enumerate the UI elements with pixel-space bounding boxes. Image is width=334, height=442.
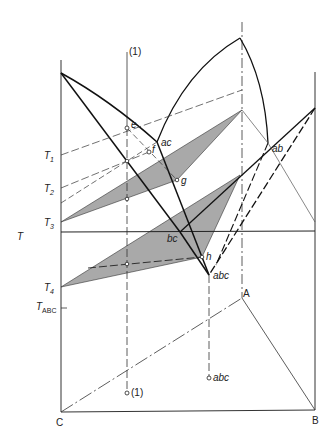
label-line1-bottom: (1)	[131, 387, 143, 398]
point-e	[125, 126, 129, 130]
base-edge-CA	[61, 298, 242, 412]
label-f: f	[152, 144, 156, 155]
label-TABC: TABC	[36, 301, 57, 314]
label-T2: T2	[44, 183, 54, 196]
label-e: e	[131, 119, 137, 130]
label-ab: ab	[272, 143, 284, 154]
label-abc-base: abc	[213, 372, 229, 383]
label-T4: T4	[44, 282, 54, 295]
curve-ac-to-A-peak	[157, 38, 240, 142]
curve-A-peak-to-ab	[240, 38, 268, 143]
point-line1-a	[125, 159, 129, 163]
point-h	[200, 255, 204, 259]
label-bc: bc	[167, 233, 178, 244]
label-ac: ac	[161, 137, 172, 148]
point-g	[175, 178, 179, 182]
label-A: A	[243, 288, 250, 299]
label-T1: T1	[44, 150, 54, 163]
thin-line-A-to-ab	[242, 110, 268, 143]
base-edge-AB	[242, 298, 315, 410]
label-abc: abc	[213, 270, 229, 281]
label-T3: T3	[44, 217, 54, 230]
point-abc-base	[207, 376, 211, 380]
label-g: g	[181, 175, 187, 186]
base-line-CB	[61, 410, 315, 412]
label-line1-top: (1)	[129, 46, 141, 57]
temperature-line-T	[61, 231, 315, 232]
point-line1-b	[125, 197, 129, 201]
valley-C-to-bc	[61, 73, 180, 232]
point-f	[147, 150, 151, 154]
point-line1-base	[125, 391, 129, 395]
label-B: B	[312, 415, 319, 426]
label-h: h	[206, 251, 212, 262]
thin-line-ab-to-B	[268, 143, 315, 222]
point-line1-c	[125, 262, 129, 266]
label-C: C	[56, 417, 63, 428]
phase-diagram: (1) e f ac ab g bc h abc abc (1) T1 T2 T…	[0, 0, 334, 442]
label-T: T	[17, 231, 24, 242]
curve-C-to-ac	[61, 73, 157, 142]
